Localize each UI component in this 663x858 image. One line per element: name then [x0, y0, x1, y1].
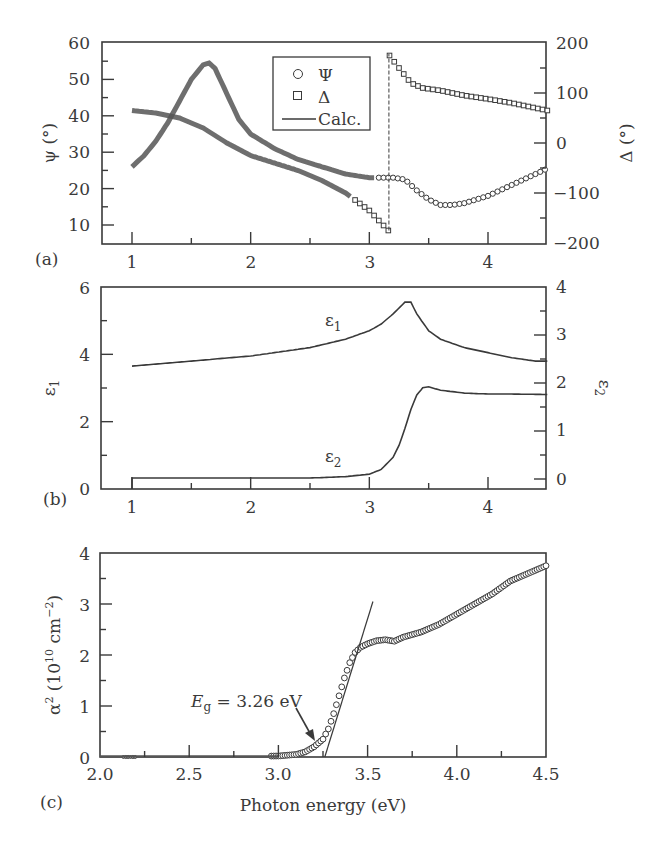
legend-delta: Δ [318, 87, 330, 107]
c-xtick-2-5: 2.5 [175, 764, 202, 784]
eg-arrow-icon [296, 708, 315, 741]
panel-c: 4 3 2 1 0 2.0 2.5 3.0 3.5 4.0 4.5 Photon… [40, 544, 560, 815]
legend-circle-icon [294, 70, 303, 79]
a-ytick-10: 10 [68, 215, 90, 235]
delta-point [521, 103, 526, 108]
delta-point [353, 198, 358, 203]
b-ytick-0: 0 [79, 479, 90, 499]
b-ytick-right-4: 4 [556, 277, 567, 297]
delta-point [502, 100, 507, 105]
delta-point [498, 99, 503, 104]
b-xtick-1: 1 [127, 497, 138, 517]
panel-label-a: (a) [35, 249, 58, 269]
delta-point [445, 90, 450, 95]
b-ytick-right-0: 0 [556, 469, 567, 489]
a-ytick-20: 20 [68, 179, 90, 199]
delta-point [483, 96, 488, 101]
a-ytick-30: 30 [68, 142, 90, 162]
c-xlabel: Photon energy (eV) [240, 795, 407, 815]
eps2-curve [132, 387, 547, 489]
delta-point [536, 106, 541, 111]
b-xtick-4: 4 [483, 497, 494, 517]
delta-point [397, 66, 402, 71]
c-xtick-4-0: 4.0 [443, 764, 470, 784]
delta-point [381, 223, 386, 228]
delta-point [377, 218, 382, 223]
delta-point [507, 100, 512, 105]
delta-point [431, 87, 436, 92]
a-xtick-1: 1 [127, 252, 138, 272]
alpha2-point [342, 675, 348, 681]
a-xtick-2: 2 [246, 252, 257, 272]
c-ytick-4: 4 [79, 544, 90, 564]
delta-point [450, 91, 455, 96]
a-xtick-4: 4 [483, 252, 494, 272]
delta-point [512, 101, 517, 106]
delta-point [386, 228, 391, 233]
b-ytick-4: 4 [79, 345, 90, 365]
delta-point [526, 104, 531, 109]
a-ylabel-psi: ψ (°) [39, 123, 59, 164]
panel-c-ticks [100, 579, 501, 758]
delta-point [362, 205, 367, 210]
delta-point [372, 213, 377, 218]
delta-point [387, 53, 392, 58]
b-xtick-2: 2 [246, 497, 257, 517]
a-ylabel-delta: Δ (°) [616, 123, 636, 162]
panel-label-b: (b) [43, 489, 67, 509]
alpha2-point [339, 684, 345, 690]
alpha2-point [331, 711, 337, 717]
psi-point [419, 191, 424, 196]
alpha2-point [325, 726, 331, 732]
b-ytick-right-3: 3 [556, 324, 567, 344]
b-ylabel-eps2: ε2 [592, 380, 615, 396]
panel-a: 60 50 40 30 20 10 200 100 0 −100 −200 1 … [35, 33, 636, 272]
panel-b-frame [101, 287, 546, 489]
linear-fit-line [325, 601, 373, 757]
a-ytick-40: 40 [68, 106, 90, 126]
delta-point [411, 82, 416, 87]
c-xtick-3-0: 3.0 [264, 764, 291, 784]
psi-point [405, 179, 410, 184]
delta-point [441, 89, 446, 94]
delta-point [420, 86, 425, 91]
b-ytick-6: 6 [79, 278, 90, 298]
a-ytick-right-0: 0 [556, 133, 567, 153]
psi-point [414, 188, 419, 193]
delta-point [455, 92, 460, 97]
c-ytick-3: 3 [79, 595, 90, 615]
panel-label-c: (c) [40, 792, 63, 812]
eps1-curve [132, 302, 547, 366]
c-ytick-1: 1 [79, 697, 90, 717]
legend: Ψ Δ Calc. [273, 57, 370, 130]
delta-point [367, 208, 372, 213]
legend-calc: Calc. [318, 109, 362, 129]
b-ylabel-eps1: ε1 [39, 380, 62, 396]
delta-point [436, 88, 441, 93]
a-ytick-right-200: 200 [556, 33, 588, 53]
a-ytick-50: 50 [68, 69, 90, 89]
legend-square-icon [294, 92, 302, 100]
psi-point [409, 183, 414, 188]
figure: 60 50 40 30 20 10 200 100 0 −100 −200 1 … [0, 0, 663, 858]
b-ytick-right-2: 2 [556, 372, 567, 392]
eg-annotation: Eg = 3.26 eV [190, 691, 302, 714]
a-ytick-60: 60 [68, 33, 90, 53]
c-xtick-4-5: 4.5 [532, 764, 559, 784]
delta-point [545, 108, 550, 113]
panel-c-plot-area [100, 563, 549, 759]
delta-point [416, 84, 421, 89]
delta-point [517, 102, 522, 107]
alpha2-point [333, 702, 339, 708]
delta-point [469, 94, 474, 99]
panel-b: 6 4 2 0 4 3 2 1 0 1 2 3 4 ε1 ε2 ε1 ε2 (b… [39, 277, 615, 517]
c-ylabel: α2 (1010 cm−2) [43, 595, 64, 715]
b-curve-label-eps2: ε2 [325, 446, 341, 470]
alpha2-point [336, 693, 342, 699]
legend-psi: Ψ [318, 65, 333, 85]
alpha2-point [543, 563, 549, 569]
a-xtick-3: 3 [365, 252, 376, 272]
a-ytick-right-neg200: −200 [553, 233, 600, 253]
panel-b-ticks [101, 311, 546, 489]
delta-point [474, 95, 479, 100]
